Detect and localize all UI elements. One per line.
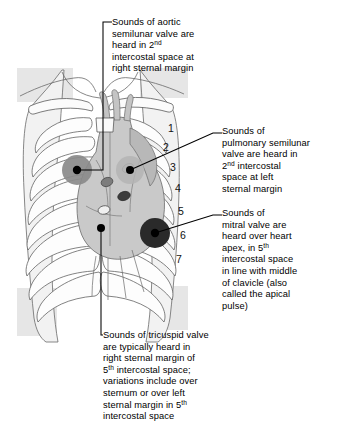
annotation-line: intercostal space (103, 411, 283, 423)
rib-number-1: 1 (168, 122, 174, 134)
annotation-line: called the apical (222, 289, 334, 301)
annotation-line: sternal margin (222, 184, 334, 196)
annotation-line: pulmonary semilunar (222, 138, 334, 150)
annotation-line: right sternal margin (112, 63, 224, 75)
rib-number-5: 5 (178, 205, 184, 217)
rib-number-7: 7 (176, 253, 182, 265)
rib-number-6: 6 (180, 229, 186, 241)
annotation-line: Sounds of aortic (112, 17, 224, 29)
rib-number-2: 2 (163, 141, 169, 153)
sternum (96, 118, 114, 132)
annotation-line: of clavicle (also (222, 278, 334, 290)
annotation-line: intercostal space (222, 254, 334, 266)
annotation-line: Sounds of (222, 126, 334, 138)
annotation-line: heard over heart (222, 231, 334, 243)
annotation-line: sternal margin in 5th (103, 400, 283, 412)
annotation-line: sternum or over left (103, 388, 283, 400)
rib-number-4: 4 (175, 182, 181, 194)
annotation-line: are typically heard in (103, 342, 283, 354)
tricuspid-valve-annotation: Sounds of tricuspid valveare typically h… (103, 330, 283, 423)
annotation-line: valve are heard in (222, 149, 334, 161)
annotation-line: 5th intercostal space; (103, 365, 283, 377)
annotation-line: right sternal margin of (103, 353, 283, 365)
annotation-line: semilunar valve are (112, 29, 224, 41)
pulmonary-valve-annotation: Sounds ofpulmonary semilunarvalve are he… (222, 126, 334, 196)
annotation-line: mitral valve are (222, 220, 334, 232)
annotation-line: space at left (222, 172, 334, 184)
annotation-line: heard in 2nd (112, 40, 224, 52)
rib-number-3: 3 (170, 161, 176, 173)
annotation-line: in line with middle (222, 266, 334, 278)
annotation-line: apex, in 5th (222, 243, 334, 255)
annotation-line: Sounds of tricuspid valve (103, 330, 283, 342)
aortic-valve-annotation: Sounds of aorticsemilunar valve areheard… (112, 17, 224, 75)
annotation-line: variations include over (103, 376, 283, 388)
mitral-valve-annotation: Sounds ofmitral valve areheard over hear… (222, 208, 334, 312)
annotation-line: pulse) (222, 301, 334, 313)
annotation-line: Sounds of (222, 208, 334, 220)
annotation-line: intercostal space at (112, 52, 224, 64)
annotation-line: 2nd intercostal (222, 161, 334, 173)
